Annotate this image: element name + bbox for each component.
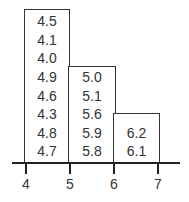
x-tick-label-4: 4 <box>16 176 36 192</box>
value: 5.6 <box>82 105 101 124</box>
x-tick-7 <box>157 162 159 174</box>
value: 4.6 <box>37 87 56 106</box>
value: 5.0 <box>82 68 101 87</box>
x-tick-4 <box>25 162 27 174</box>
bar-4-5: 4.5 4.1 4.0 4.9 4.6 4.3 4.8 4.7 <box>24 9 70 163</box>
bar-6-7: 6.2 6.1 <box>113 113 160 163</box>
value: 4.0 <box>37 49 56 68</box>
x-tick-label-6: 6 <box>104 176 124 192</box>
value: 4.5 <box>37 12 56 31</box>
value: 4.1 <box>37 31 56 50</box>
value: 5.8 <box>82 142 101 161</box>
bar-5-6-values: 5.0 5.1 5.6 5.9 5.8 <box>69 68 115 161</box>
value: 5.1 <box>82 87 101 106</box>
x-tick-6 <box>113 162 115 174</box>
value: 5.9 <box>82 124 101 143</box>
bar-6-7-values: 6.2 6.1 <box>114 124 159 161</box>
bar-5-6: 5.0 5.1 5.6 5.9 5.8 <box>68 66 116 163</box>
x-axis-line <box>12 162 180 164</box>
value: 4.3 <box>37 105 56 124</box>
value: 4.9 <box>37 68 56 87</box>
value: 4.7 <box>37 142 56 161</box>
value: 6.1 <box>127 142 146 161</box>
value: 4.8 <box>37 124 56 143</box>
x-tick-label-5: 5 <box>60 176 80 192</box>
value: 6.2 <box>127 124 146 143</box>
x-tick-5 <box>69 162 71 174</box>
bar-4-5-values: 4.5 4.1 4.0 4.9 4.6 4.3 4.8 4.7 <box>25 12 69 161</box>
x-tick-label-7: 7 <box>148 176 168 192</box>
